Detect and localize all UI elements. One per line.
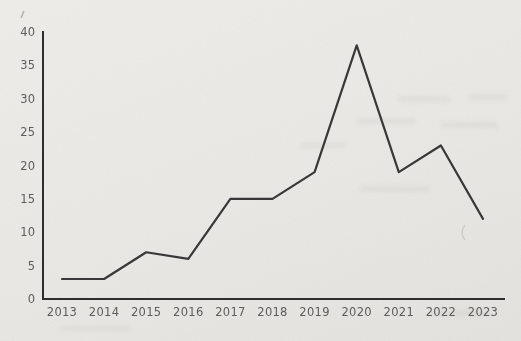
x-axis-tick-label: 2019 <box>299 305 329 319</box>
y-axis-tick-label: 15 <box>20 192 35 206</box>
y-axis-tick-label: 35 <box>20 58 35 72</box>
x-axis-tick-label: 2020 <box>341 305 371 319</box>
x-axis-tick-label: 2021 <box>384 305 414 319</box>
y-axis-tick-label: 0 <box>28 292 35 306</box>
x-axis-tick-label: 2018 <box>257 305 287 319</box>
y-axis-tick-label: 5 <box>28 259 35 273</box>
y-axis-tick-label: 40 <box>20 25 35 39</box>
scanned-page: 0510152025303540201320142015201620172018… <box>0 0 521 341</box>
x-axis-tick-label: 2023 <box>468 305 498 319</box>
x-axis-tick-label: 2016 <box>173 305 203 319</box>
scan-noise-overlay <box>0 0 521 341</box>
y-axis-tick-label: 20 <box>20 159 35 173</box>
line-chart: 0510152025303540201320142015201620172018… <box>0 0 521 341</box>
x-axis-tick-label: 2013 <box>47 305 77 319</box>
y-axis-tick-label: 25 <box>20 125 35 139</box>
y-axis-tick-label: 10 <box>20 225 35 239</box>
x-axis-tick-label: 2017 <box>215 305 245 319</box>
x-axis-tick-label: 2015 <box>131 305 161 319</box>
y-axis-tick-label: 30 <box>20 92 35 106</box>
x-axis-tick-label: 2022 <box>426 305 456 319</box>
x-axis-tick-label: 2014 <box>89 305 119 319</box>
